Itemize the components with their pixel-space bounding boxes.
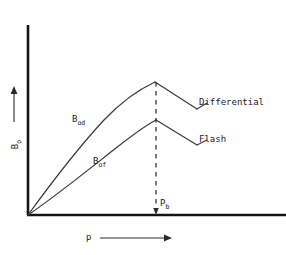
y-axis-label: Bo: [11, 128, 20, 162]
curve-differential-falloff: [155, 82, 197, 109]
y-axis-arrow-icon: [11, 86, 18, 122]
breakpoint-label-sub: b: [165, 203, 169, 211]
curve-label-bof-sub: of: [98, 161, 106, 169]
breakpoint-label-pb: Pb: [160, 199, 169, 208]
curve-flash-falloff: [156, 120, 197, 145]
y-axis-label-main: B: [10, 144, 20, 149]
x-axis-label: p: [86, 233, 91, 242]
x-axis-label-main: p: [86, 232, 91, 242]
legend-label-differential: Differential: [199, 98, 264, 107]
x-axis-arrow-icon: [100, 235, 172, 242]
figure-container: Bo p Bod Bof Pb Differential Flash: [0, 0, 286, 255]
plot-canvas: [0, 0, 286, 255]
curve-label-bod-sub: od: [77, 119, 85, 127]
legend-label-flash: Flash: [199, 135, 226, 144]
curve-label-bof: Bof: [93, 157, 106, 166]
curve-label-bod: Bod: [72, 115, 85, 124]
curve-differential: [28, 82, 155, 215]
y-axis-label-sub: o: [14, 140, 22, 144]
